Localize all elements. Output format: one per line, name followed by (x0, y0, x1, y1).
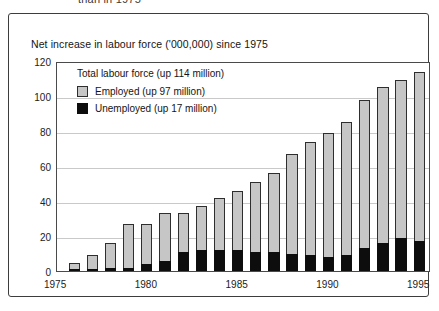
bar-1991 (341, 122, 352, 271)
y-axis-tick-label: 80 (40, 127, 51, 138)
clipped-caption-text: than in 1975 (78, 0, 141, 5)
x-axis-tick-label: 1980 (135, 279, 157, 290)
bar-segment-unemployed (268, 252, 279, 271)
bar-segment-employed (123, 224, 134, 271)
bar-1993 (377, 87, 388, 271)
legend-item-employed: Employed (up 97 million) (77, 86, 224, 97)
y-axis: 020406080100120 (9, 14, 56, 311)
figure-frame: Net increase in labour force ('000,000) … (8, 13, 429, 297)
y-axis-tick-label: 60 (40, 162, 51, 173)
y-axis-tick-label: 20 (40, 232, 51, 243)
bar-1976 (69, 263, 80, 271)
bar-segment-unemployed (341, 255, 352, 271)
bar-1982 (178, 213, 189, 271)
bar-1994 (395, 80, 406, 271)
bar-segment-employed (341, 122, 352, 271)
bar-1988 (286, 154, 297, 271)
x-axis-tick-label: 1985 (226, 279, 248, 290)
bar-1983 (196, 206, 207, 271)
bar-segment-unemployed (414, 241, 425, 271)
bar-1979 (123, 224, 134, 271)
bar-segment-employed (323, 133, 334, 271)
y-axis-tick-label: 100 (34, 92, 51, 103)
bar-segment-unemployed (214, 250, 225, 271)
y-axis-tick-label: 120 (34, 57, 51, 68)
x-axis-tick-label: 1995 (407, 279, 429, 290)
bar-segment-unemployed (286, 254, 297, 272)
bar-segment-unemployed (105, 268, 116, 271)
bar-segment-unemployed (196, 250, 207, 271)
bar-segment-unemployed (305, 255, 316, 271)
bar-segment-unemployed (87, 269, 98, 271)
bar-1980 (141, 224, 152, 271)
bar-1978 (105, 243, 116, 271)
bar-1981 (159, 213, 170, 271)
legend-label-unemployed: Unemployed (up 17 million) (95, 103, 217, 114)
bar-1985 (232, 191, 243, 272)
bar-segment-unemployed (250, 252, 261, 271)
legend-swatch-employed (77, 86, 88, 97)
bar-1990 (323, 133, 334, 271)
bar-1989 (305, 142, 316, 272)
bar-segment-unemployed (395, 238, 406, 271)
bar-segment-unemployed (159, 261, 170, 272)
chart-title: Net increase in labour force ('000,000) … (31, 38, 268, 50)
legend-item-unemployed: Unemployed (up 17 million) (77, 103, 224, 114)
bar-1992 (359, 100, 370, 272)
bar-segment-unemployed (69, 269, 80, 271)
bar-1977 (87, 255, 98, 271)
y-axis-tick-label: 0 (45, 267, 51, 278)
x-axis-tick-label: 1975 (44, 279, 66, 290)
y-axis-tick-label: 40 (40, 197, 51, 208)
legend-heading: Total labour force (up 114 million) (77, 68, 224, 79)
bar-segment-unemployed (323, 257, 334, 271)
clipped-caption-strip: than in 1975 (0, 0, 439, 11)
bar-segment-employed (105, 243, 116, 271)
bar-1987 (268, 173, 279, 271)
chart-legend: Total labour force (up 114 million) Empl… (77, 68, 224, 120)
bar-segment-unemployed (359, 248, 370, 271)
bar-1984 (214, 198, 225, 272)
x-axis: 19751980198519901995 (56, 274, 430, 294)
bar-segment-unemployed (232, 250, 243, 271)
bar-1986 (250, 182, 261, 271)
bar-segment-unemployed (178, 252, 189, 271)
legend-label-employed: Employed (up 97 million) (95, 86, 205, 97)
bar-1995 (414, 72, 425, 272)
bar-segment-employed (359, 100, 370, 272)
bar-segment-employed (305, 142, 316, 272)
bar-segment-unemployed (377, 243, 388, 271)
x-axis-tick-label: 1990 (316, 279, 338, 290)
bar-segment-unemployed (141, 264, 152, 271)
legend-swatch-unemployed (77, 103, 88, 114)
bar-segment-unemployed (123, 268, 134, 272)
